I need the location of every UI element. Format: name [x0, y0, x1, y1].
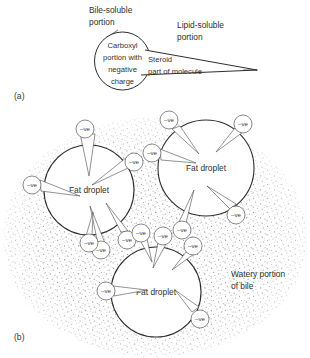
charge-marker-label: –ve [238, 120, 249, 127]
lipid-soluble-label-line1: Lipid-soluble [177, 20, 224, 30]
fat-droplet-left-label: Fat droplet [69, 185, 110, 195]
figure-container: Bile-soluble portion Lipid-soluble porti… [0, 0, 310, 358]
charge-marker-label: –ve [27, 181, 38, 188]
watery-portion-label-line1: Watery portion [231, 269, 285, 279]
steroid-label-line2: part of molecule [148, 67, 202, 76]
watery-portion-label-line2: of bile [231, 281, 254, 291]
panel-b: Fat droplet Fat droplet Fat droplet –ve [0, 108, 310, 358]
charge-marker-label: –ve [136, 229, 147, 236]
charge-marker-label: –ve [195, 315, 206, 322]
bile-salt-diagram: Bile-soluble portion Lipid-soluble porti… [0, 0, 310, 358]
carboxyl-text-line3: negative [108, 65, 137, 74]
fat-droplet-bottom-label: Fat droplet [136, 287, 177, 297]
lipid-soluble-label-line2: portion [177, 32, 203, 42]
charge-marker-label: –ve [101, 287, 112, 294]
charge-marker-label: –ve [129, 158, 140, 165]
charge-marker-label: –ve [80, 125, 91, 132]
fat-droplet-right-label: Fat droplet [186, 163, 227, 173]
panel-a: Bile-soluble portion Lipid-soluble porti… [14, 5, 258, 101]
charge-marker-label: –ve [158, 232, 169, 239]
charge-marker-label: –ve [84, 239, 95, 246]
carboxyl-text-line1: Carboxyl [108, 41, 138, 50]
panel-b-label: (b) [14, 332, 25, 342]
bile-soluble-label-line1: Bile-soluble [89, 5, 133, 15]
charge-marker-label: –ve [164, 116, 175, 123]
charge-marker-label: –ve [122, 236, 133, 243]
charge-marker-label: –ve [231, 211, 242, 218]
charge-marker-label: –ve [147, 149, 158, 156]
steroid-label-line1: Steroid [148, 55, 172, 64]
charge-marker-label: –ve [188, 242, 199, 249]
charge-marker-label: –ve [177, 226, 188, 233]
charge-marker-label: –ve [96, 246, 107, 253]
carboxyl-text-line2: portion with [103, 53, 142, 62]
panel-a-label: (a) [14, 91, 25, 101]
bile-soluble-label-line2: portion [89, 17, 115, 27]
carboxyl-text-line4: charge [111, 77, 134, 86]
